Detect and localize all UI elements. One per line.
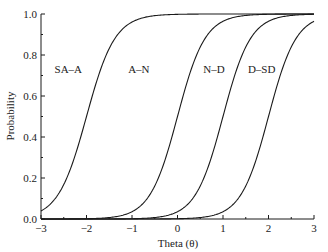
x-tick-label: 2 [266,222,272,234]
y-tick-label: 0.8 [23,49,37,61]
curve-label: SA–A [55,63,83,75]
x-axis-title: Theta (θ) [158,237,199,250]
curve-label: D–SD [248,63,276,75]
y-ticks: 0.00.20.40.60.81.0 [23,8,45,225]
axes-group: −3−2−10123 0.00.20.40.60.81.0 [23,8,317,234]
curves-group [41,14,314,219]
x-tick-label: 0 [175,222,181,234]
curve-a-n [41,14,314,219]
y-tick-label: 0.0 [23,213,37,225]
curve-label: A–N [128,63,149,75]
y-tick-label: 0.6 [23,90,37,102]
curve-sa-a [41,14,314,211]
x-ticks: −3−2−10123 [35,215,317,234]
y-axis-title: Probability [4,91,16,140]
curve-label: N–D [203,63,224,75]
y-tick-label: 1.0 [23,8,37,20]
x-tick-label: −1 [126,222,138,234]
x-tick-label: −2 [81,222,93,234]
curve-labels: SA–AA–NN–DD–SD [55,63,276,75]
x-tick-label: 1 [220,222,226,234]
y-tick-label: 0.4 [23,131,37,143]
y-tick-label: 0.2 [23,172,37,184]
x-tick-label: 3 [311,222,317,234]
irt-category-boundary-chart: −3−2−10123 0.00.20.40.60.81.0 Theta (θ) … [0,0,328,252]
curve-d-sd [41,21,314,219]
